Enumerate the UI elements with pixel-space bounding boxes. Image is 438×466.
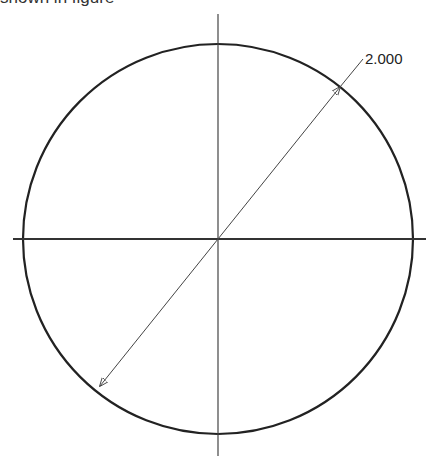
- dimension-leader: [340, 59, 363, 87]
- drawing-canvas: [0, 0, 438, 466]
- diameter-dimension-line: [100, 87, 340, 386]
- diameter-dimension-label: 2.000: [365, 50, 403, 67]
